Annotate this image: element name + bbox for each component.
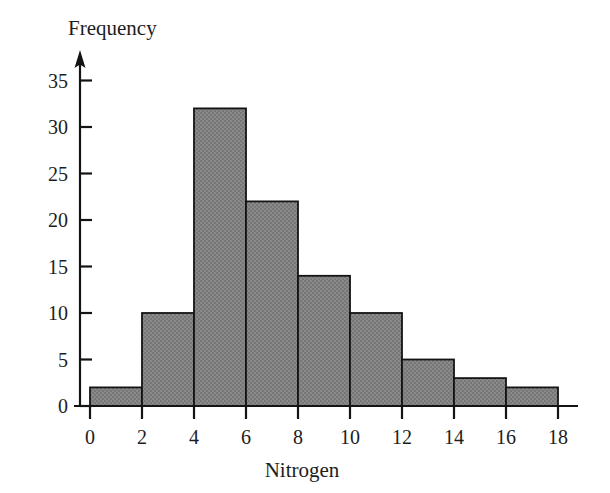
y-tick-label: 20	[48, 209, 68, 231]
histogram-bar	[90, 387, 142, 406]
y-tick-label: 30	[48, 116, 68, 138]
y-tick-label: 5	[58, 349, 68, 371]
histogram-bar	[246, 201, 298, 406]
histogram-bar	[298, 276, 350, 406]
x-tick-label: 12	[392, 426, 412, 448]
y-tick-label: 10	[48, 302, 68, 324]
x-tick-label: 16	[496, 426, 516, 448]
histogram-bar	[454, 378, 506, 406]
histogram-bar	[506, 387, 558, 406]
x-tick-label: 18	[548, 426, 568, 448]
y-tick-label: 35	[48, 70, 68, 92]
y-tick-label: 15	[48, 256, 68, 278]
x-axis-title: Nitrogen	[265, 458, 340, 482]
chart-background	[0, 0, 610, 493]
x-tick-label: 6	[241, 426, 251, 448]
x-tick-label: 4	[189, 426, 199, 448]
y-tick-label: 0	[58, 395, 68, 417]
x-tick-label: 8	[293, 426, 303, 448]
chart-canvas: Frequency 0	[0, 0, 610, 493]
y-axis-title: Frequency	[68, 16, 157, 40]
histogram-chart: Frequency 0	[0, 0, 610, 493]
x-tick-label: 14	[444, 426, 464, 448]
x-tick-label: 0	[85, 426, 95, 448]
histogram-bar	[142, 313, 194, 406]
x-tick-label: 10	[340, 426, 360, 448]
x-tick-label: 2	[137, 426, 147, 448]
histogram-bar	[350, 313, 402, 406]
histogram-bar	[402, 360, 454, 407]
y-tick-label: 25	[48, 163, 68, 185]
histogram-bar	[194, 108, 246, 406]
